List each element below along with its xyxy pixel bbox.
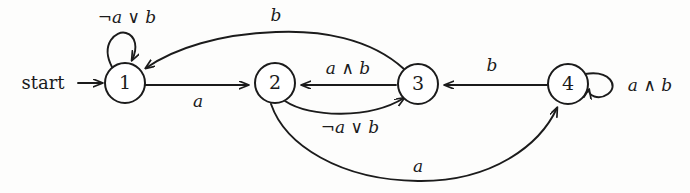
transition-1-to-1-label: ¬a ∨ b — [98, 7, 157, 27]
state-node-3[interactable]: 3 — [398, 64, 438, 104]
state-1-label: 1 — [119, 71, 131, 93]
state-node-2[interactable]: 2 — [255, 63, 295, 103]
transition-3-to-2-label: a ∧ b — [326, 58, 370, 78]
transition-2-to-3-label: ¬a ∨ b — [321, 117, 380, 137]
transition-2-to-4-label: a — [413, 156, 423, 176]
transition-4-to-4-label: a ∧ b — [628, 75, 672, 95]
transition-4-to-4-path — [585, 73, 613, 97]
transition-3-to-1-label: b — [271, 5, 282, 25]
transition-1-to-1-path — [108, 33, 136, 67]
state-machine-diagram: start ¬a ∨ b a b a ∧ b ¬a ∨ b b — [0, 0, 690, 193]
state-node-1[interactable]: 1 — [105, 63, 145, 103]
state-4-label: 4 — [562, 72, 574, 94]
transition-4-to-3-label: b — [487, 55, 498, 75]
transition-2-to-3-path — [285, 98, 404, 114]
state-2-label: 2 — [269, 71, 281, 93]
transition-4-to-4 — [585, 73, 613, 97]
automaton-canvas: start ¬a ∨ b a b a ∧ b ¬a ∨ b b — [0, 0, 690, 193]
state-node-4[interactable]: 4 — [548, 64, 588, 104]
state-3-label: 3 — [412, 72, 424, 94]
transition-1-to-1 — [108, 33, 136, 67]
transition-1-to-2-label: a — [193, 91, 203, 111]
transition-2-to-3 — [285, 98, 404, 114]
start-label: start — [21, 72, 65, 93]
